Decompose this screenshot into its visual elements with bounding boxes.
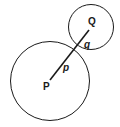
tangent-circles-diagram: P p Q q bbox=[0, 0, 120, 127]
large-circle-p bbox=[11, 42, 90, 121]
radius-label-q: q bbox=[84, 39, 90, 50]
small-circle-q bbox=[69, 5, 114, 50]
radius-label-p: p bbox=[62, 62, 69, 73]
center-label-p: P bbox=[43, 81, 50, 92]
center-label-q: Q bbox=[88, 16, 96, 27]
center-line-pq bbox=[50, 30, 89, 80]
